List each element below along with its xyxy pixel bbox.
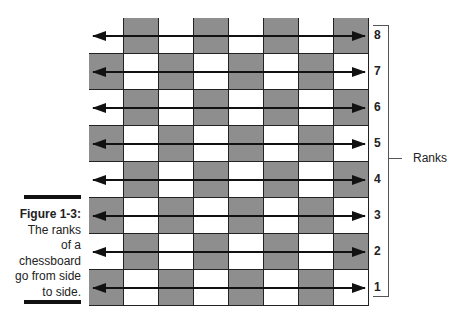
- arrow-right-icon: [352, 67, 366, 77]
- rank-row-5: [90, 126, 368, 162]
- caption-line: chessboard: [0, 254, 81, 270]
- arrow-left-icon: [92, 175, 106, 185]
- ranks-label: Ranks: [413, 151, 447, 165]
- rank-arrow-line: [93, 35, 365, 37]
- arrow-left-icon: [92, 67, 106, 77]
- rank-row-7: [90, 54, 368, 90]
- arrow-right-icon: [352, 175, 366, 185]
- arrow-right-icon: [352, 247, 366, 257]
- rank-row-3: [90, 198, 368, 234]
- caption-line: of a: [0, 238, 81, 254]
- arrow-left-icon: [92, 283, 106, 293]
- rank-row-2: [90, 234, 368, 270]
- arrow-right-icon: [352, 283, 366, 293]
- arrow-right-icon: [352, 103, 366, 113]
- arrow-left-icon: [92, 31, 106, 41]
- arrow-right-icon: [352, 31, 366, 41]
- caption-line: go from side: [0, 269, 81, 285]
- figure-caption: Figure 1-3: The ranks of a chessboard go…: [0, 207, 81, 300]
- caption-line: The ranks: [0, 223, 81, 239]
- arrow-left-icon: [92, 247, 106, 257]
- ranks-bracket: [373, 25, 389, 297]
- rank-arrow-line: [93, 179, 365, 181]
- rank-row-1: [90, 270, 368, 306]
- rank-arrow-line: [93, 143, 365, 145]
- figure-number: Figure 1-3:: [0, 207, 81, 223]
- rank-row-4: [90, 162, 368, 198]
- rank-arrow-line: [93, 107, 365, 109]
- rank-arrow-line: [93, 287, 365, 289]
- arrow-right-icon: [352, 211, 366, 221]
- chessboard: [89, 18, 369, 306]
- rank-row-8: [90, 18, 368, 54]
- caption-top-rule: [24, 195, 81, 199]
- arrow-left-icon: [92, 211, 106, 221]
- bracket-pointer-line: [389, 158, 402, 159]
- caption-bottom-rule: [24, 300, 81, 304]
- rank-row-6: [90, 90, 368, 126]
- rank-arrow-line: [93, 215, 365, 217]
- rank-arrow-line: [93, 71, 365, 73]
- arrow-right-icon: [352, 139, 366, 149]
- arrow-left-icon: [92, 103, 106, 113]
- rank-arrow-line: [93, 251, 365, 253]
- arrow-left-icon: [92, 139, 106, 149]
- caption-line: to side.: [0, 285, 81, 301]
